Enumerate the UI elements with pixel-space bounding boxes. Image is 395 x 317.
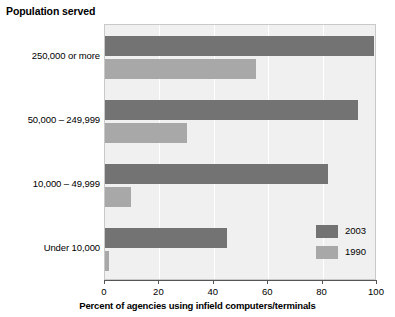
bar-2003-1 [105,100,358,120]
legend-label-1990: 1990 [345,247,366,257]
legend-item-1990: 1990 [316,243,384,261]
bar-1990-1 [105,123,187,143]
x-tick [104,280,105,284]
x-tick-label-20: 20 [138,286,178,297]
bar-1990-2 [105,187,131,207]
x-tick-label-60: 60 [247,286,287,297]
legend-item-2003: 2003 [316,222,384,240]
y-axis-category-labels: 250,000 or more50,000 – 249,99910,000 – … [0,24,100,280]
x-tick-label-80: 80 [302,286,342,297]
x-tick [376,280,377,284]
y-axis-label-0: 250,000 or more [2,50,100,61]
bar-2003-0 [105,36,374,56]
legend-label-2003: 2003 [345,226,366,236]
chart-title: Population served [6,5,95,17]
bar-1990-0 [105,59,256,79]
x-tick [267,280,268,284]
x-tick-label-0: 0 [84,286,124,297]
x-tick-label-100: 100 [356,286,395,297]
gridline [268,25,269,279]
x-axis-title: Percent of agencies using infield comput… [0,300,395,311]
x-axis-line [104,280,376,281]
y-axis-label-2: 10,000 – 49,999 [2,178,100,189]
x-tick [322,280,323,284]
x-tick-label-40: 40 [193,286,233,297]
y-axis-label-3: Under 10,000 [2,242,100,253]
x-tick [213,280,214,284]
y-axis-label-1: 50,000 – 249,999 [2,114,100,125]
legend-swatch-1990-icon [316,246,338,259]
bar-1990-3 [105,251,109,271]
x-tick [158,280,159,284]
chart-legend: 2003 1990 [316,222,384,264]
bar-2003-3 [105,228,227,248]
bar-chart: Population served 250,000 or more50,000 … [0,0,395,317]
legend-swatch-2003-icon [316,225,338,238]
bar-2003-2 [105,164,328,184]
